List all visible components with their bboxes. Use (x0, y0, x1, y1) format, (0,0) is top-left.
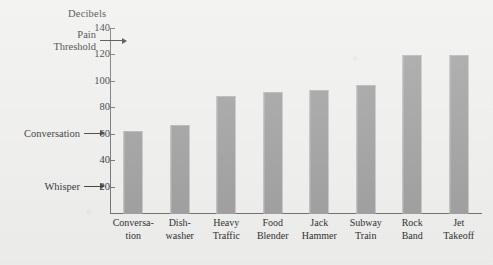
bar-slot (250, 28, 297, 214)
y-tick-label-wrap: 40 (70, 155, 110, 165)
annotation-pain-threshold: Pain Threshold (36, 29, 127, 52)
bar (263, 92, 282, 214)
x-axis-category-label: Jet Takeoff (436, 217, 483, 242)
y-tick-label: 80 (80, 102, 110, 112)
bar (217, 96, 236, 214)
chart-canvas: Decibels 20406080100120140 Conversa- tio… (0, 0, 493, 265)
bar-slot (110, 28, 157, 214)
annotation-pain-threshold-arrow-icon (100, 40, 126, 41)
annotation-whisper: Whisper (30, 181, 105, 193)
x-axis-category-label: Conversa- tion (110, 217, 157, 242)
x-axis-category-label: Rock Band (389, 217, 436, 242)
bar (310, 90, 329, 214)
y-tick-label: 100 (80, 76, 110, 86)
annotation-whisper-arrow-icon (84, 186, 104, 187)
bar (356, 85, 375, 215)
annotation-conversation-label: Conversation (14, 128, 80, 140)
bar-series (110, 28, 482, 214)
x-axis-category-label: Food Blender (250, 217, 297, 242)
y-tick-label-wrap: 100 (70, 76, 110, 86)
x-axis-category-labels: Conversa- tionDish- washerHeavy TrafficF… (110, 217, 482, 261)
annotation-pain-threshold-label: Pain Threshold (36, 29, 96, 52)
x-axis-category-label: Subway Train (343, 217, 390, 242)
bar (449, 55, 468, 214)
y-tick-label-wrap: 80 (70, 102, 110, 112)
bar (170, 125, 189, 214)
x-axis-category-label: Jack Hammer (296, 217, 343, 242)
bar-slot (157, 28, 204, 214)
bar-slot (296, 28, 343, 214)
bar-slot (343, 28, 390, 214)
annotation-conversation: Conversation (14, 128, 105, 140)
bar-slot (389, 28, 436, 214)
x-axis-category-label: Heavy Traffic (203, 217, 250, 242)
y-tick-label: 40 (80, 155, 110, 165)
annotation-conversation-arrow-icon (84, 133, 104, 134)
annotation-whisper-label: Whisper (30, 181, 80, 193)
bar-slot (436, 28, 483, 214)
bar-slot (203, 28, 250, 214)
x-axis-category-label: Dish- washer (157, 217, 204, 242)
bar (124, 131, 143, 214)
y-axis-title: Decibels (68, 8, 106, 19)
bar (403, 55, 422, 214)
